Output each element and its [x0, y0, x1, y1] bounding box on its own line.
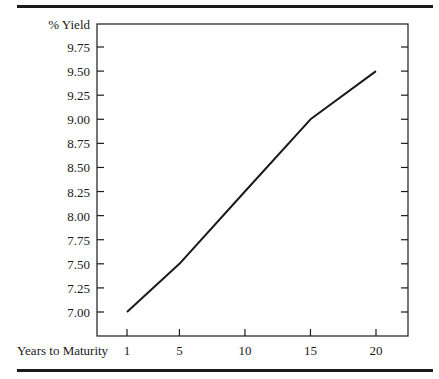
y-tick-label: 9.25 [67, 88, 90, 103]
y-tick-label: 7.00 [67, 305, 90, 320]
y-tick-label: 8.50 [67, 160, 90, 175]
y-axis-label: % Yield [48, 17, 90, 32]
yield-line [127, 71, 376, 312]
y-tick-label: 8.00 [67, 209, 90, 224]
plot-frame [97, 24, 408, 336]
x-tick-label: 1 [124, 343, 131, 358]
y-tick-label: 7.25 [67, 281, 90, 296]
y-tick-label: 8.75 [67, 136, 90, 151]
x-axis-ticks: 15101520 [124, 329, 383, 358]
y-tick-label: 7.75 [67, 233, 90, 248]
y-tick-label: 9.75 [67, 40, 90, 55]
y-tick-label: 8.25 [67, 185, 90, 200]
x-tick-label: 10 [238, 343, 251, 358]
y-tick-label: 9.00 [67, 112, 90, 127]
yield-curve-chart: % Yield Years to Maturity 9.759.509.259.… [0, 0, 439, 379]
y-tick-label: 9.50 [67, 64, 90, 79]
y-axis-ticks: 9.759.509.259.008.758.508.258.007.757.50… [67, 40, 408, 320]
x-tick-label: 20 [370, 343, 383, 358]
x-tick-label: 5 [176, 343, 183, 358]
y-tick-label: 7.50 [67, 257, 90, 272]
x-tick-label: 15 [304, 343, 317, 358]
x-axis-label: Years to Maturity [17, 343, 109, 358]
